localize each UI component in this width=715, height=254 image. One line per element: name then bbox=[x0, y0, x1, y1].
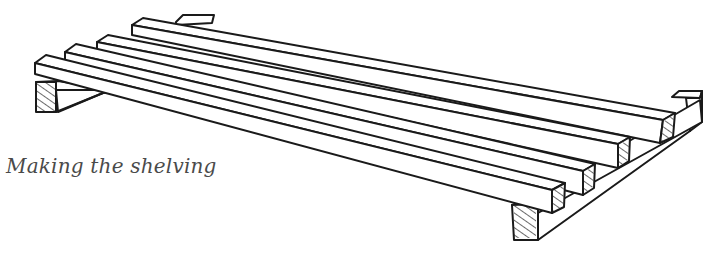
figure-caption: Making the shelving bbox=[6, 154, 217, 178]
shelving-illustration bbox=[0, 0, 715, 254]
